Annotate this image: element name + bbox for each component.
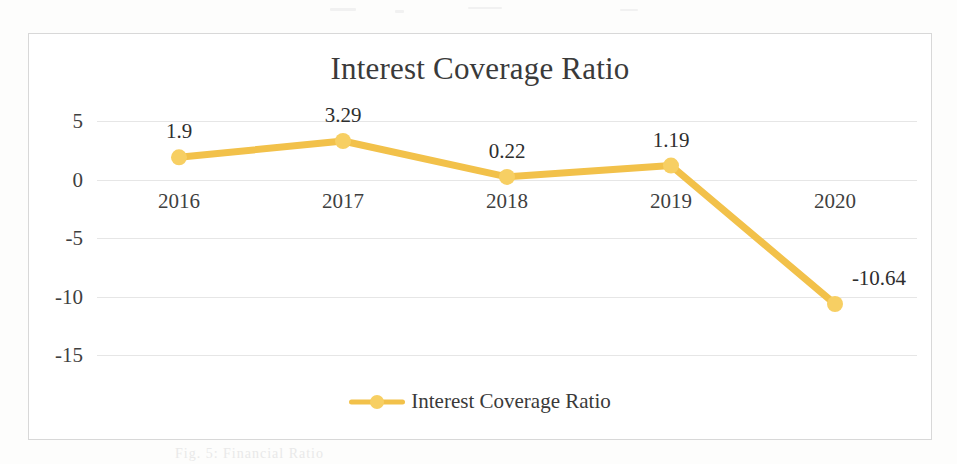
plot-area: 5 0 -5 -10 -15 20162017201820192020 1.93… [97,121,917,355]
scan-artifact [395,10,404,13]
x-axis-tick-label: 2018 [486,189,528,214]
series-polyline [179,141,835,304]
data-point-value-label: 3.29 [325,103,362,128]
y-axis-tick-label: -5 [66,226,84,251]
data-point-marker [499,169,515,185]
scan-artifact [620,9,638,11]
x-axis-tick-label: 2017 [322,189,364,214]
x-axis-tick-label: 2020 [814,189,856,214]
chart-container: Interest Coverage Ratio 5 0 -5 -10 -15 [28,33,932,440]
data-point-marker [663,158,679,174]
y-axis-tick-label: -15 [55,343,83,368]
data-point-value-label: -10.64 [852,266,906,291]
data-point-marker [827,296,843,312]
x-axis-tick-label: 2016 [158,189,200,214]
legend-label: Interest Coverage Ratio [411,389,610,414]
x-axis-tick-label: 2019 [650,189,692,214]
data-point-marker [335,133,351,149]
page-caption: Fig. 5: Financial Ratio [175,446,324,462]
scanned-page: Interest Coverage Ratio 5 0 -5 -10 -15 [0,0,957,464]
gridline-neg15: -15 [97,355,917,356]
data-point-value-label: 0.22 [489,139,526,164]
data-point-value-label: 1.19 [653,128,690,153]
y-axis-tick-label: 5 [73,109,84,134]
data-point-value-label: 1.9 [166,119,192,144]
scan-artifact [468,7,502,9]
y-axis-tick-label: 0 [73,167,84,192]
data-point-marker [171,149,187,165]
y-axis-tick-label: -10 [55,284,83,309]
scan-artifact [330,8,356,11]
chart-legend: Interest Coverage Ratio [29,389,931,414]
chart-title: Interest Coverage Ratio [29,51,931,87]
legend-point-marker [370,395,384,409]
legend-marker-icon [349,393,405,411]
